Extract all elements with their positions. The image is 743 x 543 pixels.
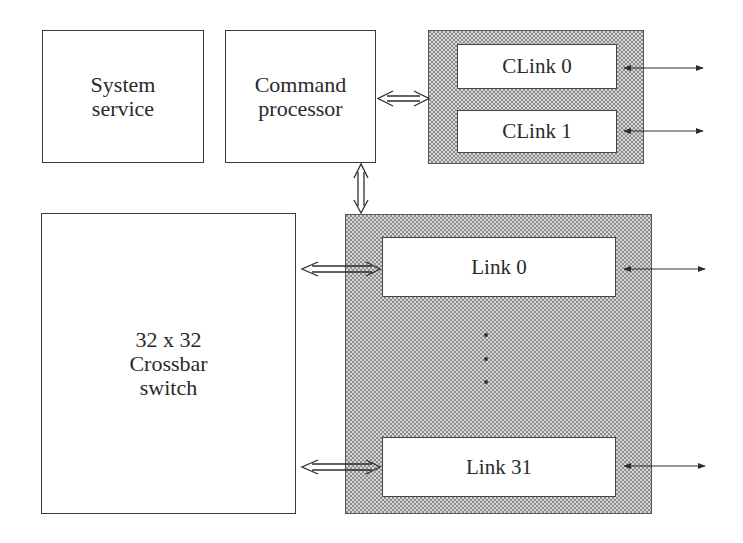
double-arrow-cmd-clink (378, 91, 429, 106)
crossbar-switch-label: 32 x 32 Crossbar switch (129, 328, 207, 400)
system-service-label: System service (91, 73, 156, 121)
clink-0-label: CLink 0 (502, 54, 571, 79)
ellipsis-dot (484, 357, 488, 361)
clink-1-block: CLink 1 (457, 110, 617, 153)
link-0-block: Link 0 (382, 237, 616, 297)
command-processor-block: Command processor (225, 30, 376, 163)
command-processor-label: Command processor (255, 73, 347, 121)
double-arrow-cmd-link (354, 164, 368, 213)
clink-1-label: CLink 1 (502, 119, 571, 144)
crossbar-switch-block: 32 x 32 Crossbar switch (41, 213, 296, 514)
clink-0-block: CLink 0 (457, 44, 617, 89)
ellipsis-dot (484, 380, 488, 384)
system-service-block: System service (42, 30, 204, 163)
link-group: Link 0 Link 31 (345, 214, 652, 514)
clink-group: CLink 0 CLink 1 (428, 30, 644, 164)
link-31-block: Link 31 (382, 437, 616, 497)
link-31-label: Link 31 (466, 455, 532, 480)
ellipsis-dot (484, 333, 488, 337)
link-0-label: Link 0 (471, 255, 526, 280)
